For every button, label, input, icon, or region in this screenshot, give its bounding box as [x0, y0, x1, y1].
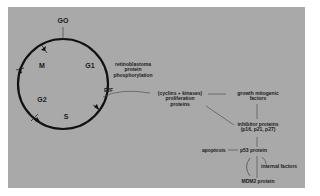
- rb-phosphorylation-label: retinoblastoma protein phosphorylation: [113, 62, 152, 78]
- mdm2-protein-label: MDM2 protein: [241, 179, 274, 184]
- e2f-label: E2F: [104, 88, 113, 93]
- growth-factors-label: growth mitogenic factors: [237, 91, 279, 102]
- phase-label-g1: G1: [85, 62, 94, 69]
- phase-label-g2: G2: [37, 96, 46, 103]
- inhibitor-proteins-label: inhibitor proteins (p16, p21, p27): [237, 122, 278, 133]
- apoptosis-label: apoptosis: [202, 148, 226, 153]
- phase-label-g0: GO: [58, 17, 69, 24]
- mdm2-feedback-loop: [247, 158, 251, 176]
- internal-factors-label: internal factors: [261, 164, 297, 169]
- cyclins-kinases-label: (cyclins + kinases) proliferation protei…: [158, 91, 202, 107]
- proliferation-inhibitor-line: [206, 106, 234, 125]
- phase-label-m: M: [39, 62, 45, 69]
- p53-protein-label: p53 protein: [240, 148, 267, 153]
- arrow-icon: [94, 104, 99, 110]
- phase-label-s: S: [64, 113, 69, 120]
